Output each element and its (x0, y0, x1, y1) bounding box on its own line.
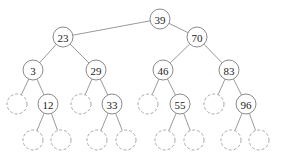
nil-leaf-node (249, 130, 269, 150)
nil-leaf-node (87, 130, 107, 150)
tree-edge (169, 23, 188, 32)
nil-node-circle (138, 94, 158, 114)
nil-leaf-node (71, 94, 91, 114)
nil-leaf-node (184, 130, 204, 150)
tree-edge (51, 113, 57, 130)
nil-leaf-node (7, 94, 27, 114)
nil-node-circle (184, 130, 204, 150)
tree-edge (85, 79, 92, 95)
nil-leaf-node (138, 94, 158, 114)
nil-node-circle (204, 94, 224, 114)
tree-edge (235, 113, 242, 131)
node-key-label: 12 (43, 99, 54, 111)
tree-node: 12 (38, 94, 58, 114)
tree-edge (152, 79, 159, 95)
nil-node-circle (116, 130, 136, 150)
node-key-label: 3 (30, 65, 36, 77)
nil-leaf-node (204, 94, 224, 114)
tree-node: 39 (150, 9, 170, 29)
tree-node: 23 (53, 27, 73, 47)
tree-edge (116, 113, 123, 130)
node-key-label: 83 (224, 65, 236, 77)
nil-node-circle (71, 94, 91, 114)
node-key-label: 46 (158, 65, 170, 77)
nil-leaf-node (221, 130, 241, 150)
tree-node: 96 (236, 94, 256, 114)
node-key-label: 55 (175, 99, 187, 111)
node-layer: 392370329468312335596 (7, 9, 269, 150)
node-key-label: 29 (91, 65, 103, 77)
nil-node-circle (87, 130, 107, 150)
tree-edge (40, 44, 57, 62)
tree-edge (37, 79, 44, 95)
tree-edge (101, 113, 108, 131)
nil-leaf-node (51, 130, 71, 150)
nil-node-circle (155, 130, 175, 150)
nil-node-circle (249, 130, 269, 150)
tree-canvas: 392370329468312335596 (0, 0, 281, 157)
tree-edge (73, 21, 150, 35)
tree-diagram: 392370329468312335596 (0, 0, 281, 157)
tree-edge (218, 79, 225, 95)
tree-edge (249, 113, 255, 130)
nil-node-circle (51, 130, 71, 150)
nil-leaf-node (23, 130, 43, 150)
node-key-label: 39 (155, 14, 167, 26)
nil-leaf-node (116, 130, 136, 150)
node-key-label: 23 (58, 32, 70, 44)
nil-node-circle (221, 130, 241, 150)
nil-leaf-node (155, 130, 175, 150)
tree-node: 70 (187, 27, 207, 47)
tree-node: 29 (86, 60, 106, 80)
node-key-label: 70 (192, 32, 204, 44)
tree-edge (204, 44, 222, 63)
tree-edge (70, 44, 89, 63)
tree-node: 83 (219, 60, 239, 80)
tree-edge (184, 113, 191, 130)
nil-node-circle (7, 94, 27, 114)
node-key-label: 96 (241, 99, 253, 111)
tree-edge (233, 79, 241, 95)
tree-edge (37, 113, 44, 131)
tree-edge (100, 79, 107, 95)
tree-edge (167, 79, 175, 95)
nil-node-circle (23, 130, 43, 150)
tree-node: 55 (170, 94, 190, 114)
tree-edge (170, 44, 190, 63)
tree-edge (169, 113, 176, 131)
tree-node: 46 (153, 60, 173, 80)
node-key-label: 33 (107, 99, 119, 111)
tree-edge (21, 79, 28, 95)
tree-node: 33 (102, 94, 122, 114)
tree-node: 3 (23, 60, 43, 80)
